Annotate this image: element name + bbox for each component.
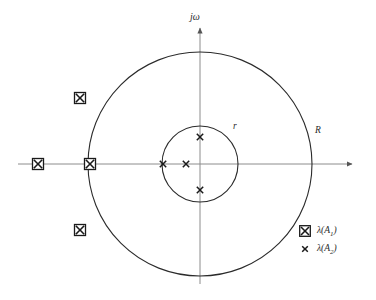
legend-label-lambda-a2: λ(A2) — [317, 243, 337, 256]
legend-label-lambda-a2-close: ) — [334, 243, 337, 253]
legend-item-lambda-a1: λ(A1) — [296, 222, 376, 240]
boxed-x-marker — [75, 93, 86, 104]
imaginary-axis-label: jω — [190, 11, 200, 22]
boxed-x-marker — [75, 225, 86, 236]
legend: λ(A1) λ(A2) — [296, 222, 376, 258]
legend-label-lambda-a2-main: λ(A — [317, 243, 330, 253]
inner-radius-label: r — [233, 121, 237, 131]
complex-plane-figure: jω r R λ(A1) λ(A2) — [0, 0, 376, 300]
outer-radius-label: R — [315, 125, 321, 135]
boxed-x-icon — [296, 225, 314, 237]
legend-item-lambda-a2: λ(A2) — [296, 240, 376, 258]
boxed-x-marker — [33, 159, 44, 170]
legend-label-lambda-a1-main: λ(A — [317, 225, 330, 235]
x-icon — [296, 243, 314, 255]
legend-label-lambda-a1: λ(A1) — [317, 225, 337, 238]
boxed-x-marker — [85, 159, 96, 170]
legend-label-lambda-a1-close: ) — [334, 225, 337, 235]
